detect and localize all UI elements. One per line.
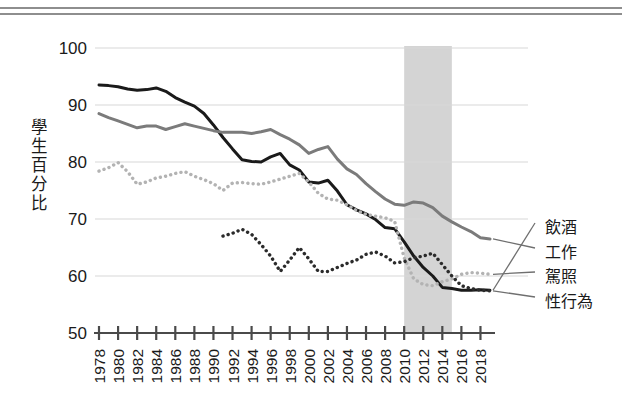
legend-connector-drinking xyxy=(493,223,535,290)
x-tick-label-2008: 2008 xyxy=(377,349,394,383)
x-tick-label-2006: 2006 xyxy=(358,349,375,383)
y-tick-label-50: 50 xyxy=(68,324,87,343)
legend-connector-license xyxy=(493,272,535,274)
x-tick-label-1990: 1990 xyxy=(205,349,222,384)
x-tick-label-1988: 1988 xyxy=(186,349,203,383)
x-tick-label-2012: 2012 xyxy=(415,349,432,383)
legend-connector-work xyxy=(493,239,535,248)
x-tick-label-1982: 1982 xyxy=(129,349,146,383)
x-tick-label-1984: 1984 xyxy=(148,349,165,384)
x-tick-label-1986: 1986 xyxy=(167,349,184,383)
x-tick-label-2018: 2018 xyxy=(472,349,489,383)
top-rule-upper xyxy=(0,7,622,9)
y-tick-label-60: 60 xyxy=(68,267,87,286)
chart-canvas: 1009080706050197819801982198419861988199… xyxy=(0,22,622,405)
shaded-band-region xyxy=(404,46,452,333)
y-tick-label-80: 80 xyxy=(68,153,87,172)
line-chart: 1009080706050197819801982198419861988199… xyxy=(0,22,622,405)
x-tick-label-1994: 1994 xyxy=(244,349,261,384)
page-root: 學生百分比 1009080706050197819801982198419861… xyxy=(0,0,622,405)
x-tick-label-2004: 2004 xyxy=(339,349,356,384)
x-tick-label-1980: 1980 xyxy=(110,349,127,384)
legend-label-license[interactable]: 駕照 xyxy=(545,269,577,285)
x-tick-label-2016: 2016 xyxy=(453,349,470,383)
x-tick-label-1998: 1998 xyxy=(282,349,299,383)
x-tick-label-2014: 2014 xyxy=(434,349,451,384)
top-rule-lower xyxy=(0,13,622,15)
y-tick-label-100: 100 xyxy=(59,39,87,58)
x-tick-label-2010: 2010 xyxy=(396,349,413,384)
x-tick-label-1978: 1978 xyxy=(91,349,108,383)
x-tick-label-2002: 2002 xyxy=(320,349,337,383)
x-tick-label-1992: 1992 xyxy=(225,349,242,383)
legend-label-work[interactable]: 工作 xyxy=(545,245,577,261)
y-tick-label-70: 70 xyxy=(68,210,87,229)
y-tick-label-90: 90 xyxy=(68,96,87,115)
x-tick-label-2000: 2000 xyxy=(301,349,318,384)
legend-connector-sex xyxy=(493,291,535,297)
x-tick-label-1996: 1996 xyxy=(263,349,280,383)
legend-label-sex[interactable]: 性行為 xyxy=(545,294,593,310)
legend-label-drinking[interactable]: 飲酒 xyxy=(545,220,577,236)
